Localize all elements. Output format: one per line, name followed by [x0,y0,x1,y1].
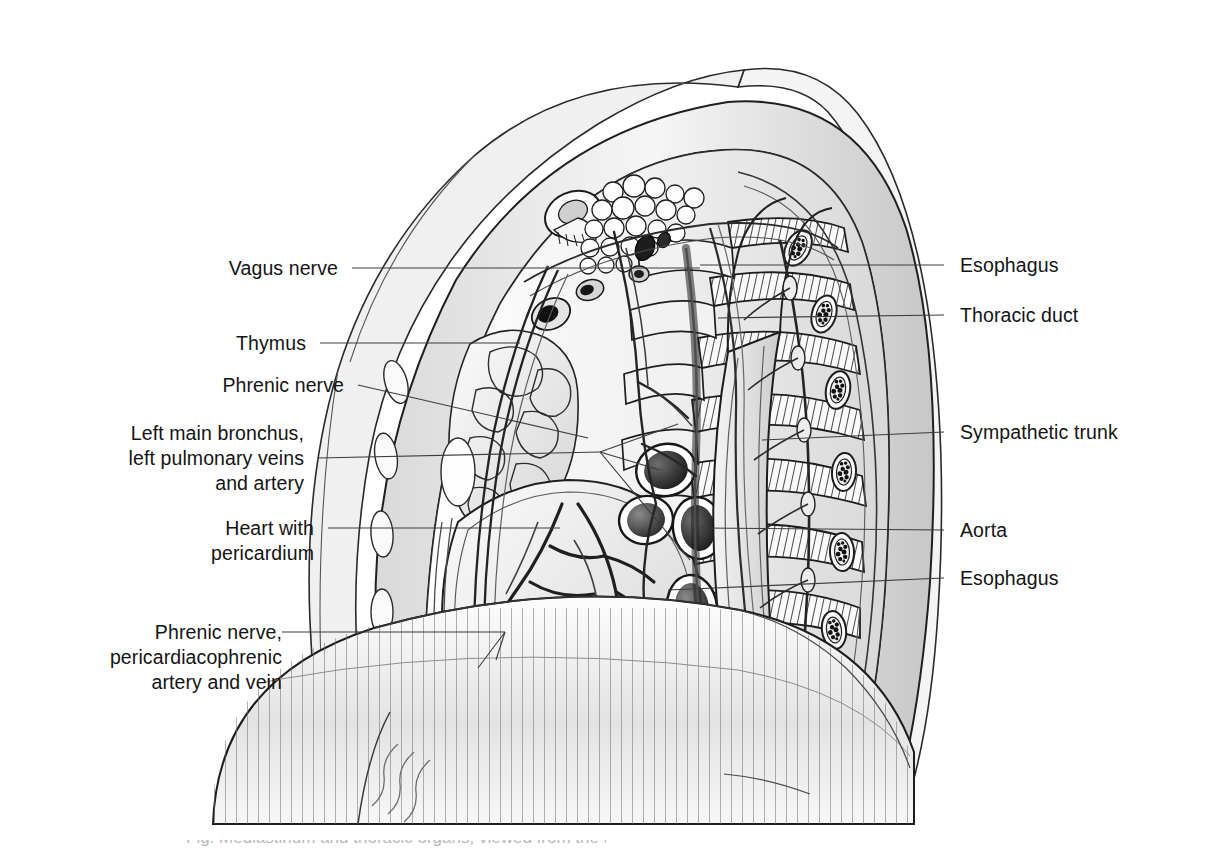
label-heart-with-pericardium: Heart with pericardium [211,516,314,566]
label-thoracic-duct: Thoracic duct [960,303,1078,328]
label-esophagus-lower: Esophagus [960,566,1058,591]
label-phrenic-pericardiacophrenic: Phrenic nerve, pericardiacophrenic arter… [110,620,282,695]
label-aorta: Aorta [960,518,1007,543]
label-left-main-bronchus: Left main bronchus, left pulmonary veins… [129,421,304,496]
figure-caption-text: Fig. Mediastinum and thoracic organs, vi… [186,840,606,848]
anatomy-figure: Vagus nerve Thymus Phrenic nerve Left ma… [0,0,1227,854]
label-phrenic-nerve: Phrenic nerve [222,373,344,398]
label-thymus: Thymus [236,331,306,356]
label-vagus-nerve: Vagus nerve [229,256,338,281]
label-esophagus-upper: Esophagus [960,253,1058,278]
figure-caption-cropped: Fig. Mediastinum and thoracic organs, vi… [186,840,606,854]
label-sympathetic-trunk: Sympathetic trunk [960,420,1118,445]
